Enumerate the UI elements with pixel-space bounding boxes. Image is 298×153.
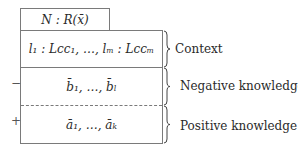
positive-knowledge-label: Positive knowledge bbox=[180, 119, 297, 133]
context-label: Context bbox=[175, 42, 223, 56]
node-header-box: N : R(x̄) bbox=[20, 8, 110, 31]
positive-knowledge-text: ā₁, …, āₖ bbox=[66, 118, 117, 132]
context-box: l₁ : Lcc₁, …, lₘ : Lccₘ bbox=[20, 30, 163, 68]
negative-knowledge-region: b̄₁, …, b̄ₗ bbox=[20, 68, 163, 105]
positive-knowledge-region: ā₁, …, āₖ bbox=[20, 106, 163, 143]
plus-sign: + bbox=[11, 115, 21, 127]
positive-brace-icon bbox=[163, 105, 171, 144]
context-brace-icon bbox=[163, 30, 171, 68]
node-header-text: N : R(x̄) bbox=[41, 13, 88, 27]
context-text: l₁ : Lcc₁, …, lₘ : Lccₘ bbox=[29, 42, 154, 56]
negative-brace-icon bbox=[163, 67, 171, 106]
negative-knowledge-label: Negative knowledge bbox=[180, 79, 298, 93]
negative-knowledge-text: b̄₁, …, b̄ₗ bbox=[66, 80, 116, 94]
minus-sign: − bbox=[11, 77, 21, 89]
